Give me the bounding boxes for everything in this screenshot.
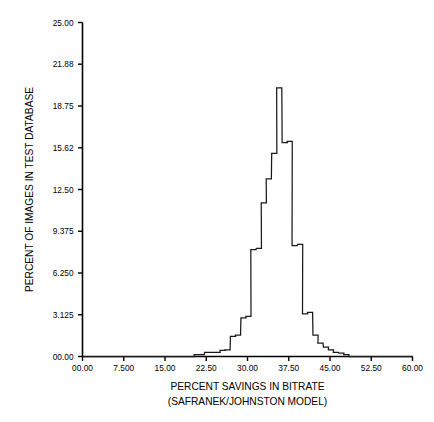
histogram-chart: 00.003.1256.2509.37512.5015.6218.7521.88… bbox=[0, 0, 434, 422]
y-tick-label: 15.62 bbox=[53, 143, 74, 153]
x-tick-label: 00.00 bbox=[72, 363, 93, 373]
y-tick-label: 18.75 bbox=[53, 101, 74, 111]
x-axis-tick-labels: 00.007.50015.0022.5030.0037.5045.0052.50… bbox=[72, 363, 423, 373]
x-tick-label: 45.00 bbox=[320, 363, 341, 373]
y-tick-label: 9.375 bbox=[53, 226, 74, 236]
y-tick-label: 6.250 bbox=[53, 268, 74, 278]
x-tick-label: 15.00 bbox=[155, 363, 176, 373]
x-axis-label-line2: (SAFRANEK/JOHNSTON MODEL) bbox=[168, 396, 327, 407]
y-tick-label: 25.00 bbox=[53, 18, 74, 28]
y-tick-label: 12.50 bbox=[53, 185, 74, 195]
y-axis-tick-labels: 00.003.1256.2509.37512.5015.6218.7521.88… bbox=[53, 18, 74, 362]
x-tick-label: 60.00 bbox=[402, 363, 423, 373]
x-tick-label: 30.00 bbox=[237, 363, 258, 373]
y-tick-label: 21.88 bbox=[53, 59, 74, 69]
y-axis-label: PERCENT OF IMAGES IN TEST DATABASE bbox=[24, 87, 35, 292]
x-tick-label: 52.50 bbox=[361, 363, 382, 373]
chart-figure: 00.003.1256.2509.37512.5015.6218.7521.88… bbox=[0, 0, 434, 422]
x-tick-label: 37.50 bbox=[278, 363, 299, 373]
x-tick-label: 22.50 bbox=[196, 363, 217, 373]
y-tick-label: 3.125 bbox=[53, 310, 74, 320]
y-tick-label: 00.00 bbox=[53, 352, 74, 362]
x-tick-label: 7.500 bbox=[113, 363, 134, 373]
x-axis-label-line1: PERCENT SAVINGS IN BITRATE bbox=[171, 381, 325, 392]
